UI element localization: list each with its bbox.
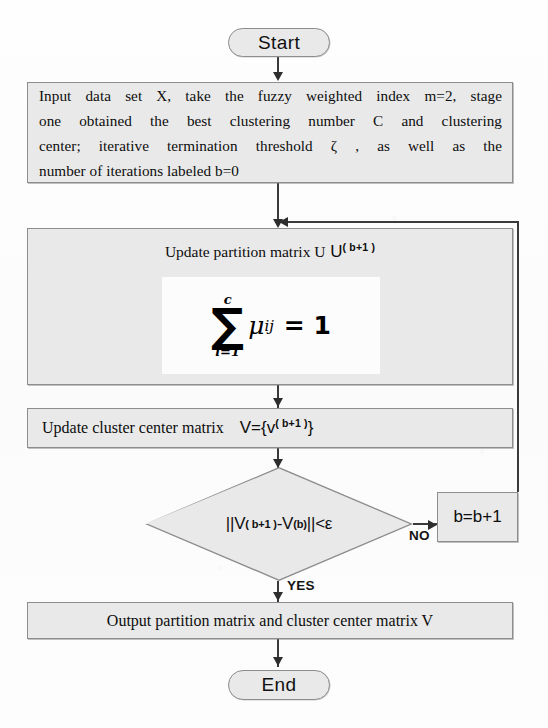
node-start-label: Start [258, 32, 300, 54]
node-increment-counter[interactable]: b=b+1 [437, 492, 518, 542]
update-v-brace-close: } [308, 419, 314, 438]
node-update-cluster-center-matrix[interactable]: Update cluster center matrix V={v( b+1 )… [27, 408, 513, 448]
input-line-1: Input data set X, take the fuzzy weighte… [39, 83, 502, 108]
node-output-process[interactable]: Output partition matrix and cluster cent… [27, 602, 513, 639]
summation-lower-limit: i=1 [215, 345, 240, 358]
update-v-superscript: ( b+1 ) [275, 417, 308, 429]
node-update-partition-matrix[interactable]: Update partition matrix U U( b+1 ) c ∑ i… [27, 228, 513, 385]
input-line-2: one obtained the best clustering number … [39, 108, 502, 133]
arrowhead-update-v-to-decision [273, 459, 283, 468]
edge-label-no: NO [409, 528, 430, 543]
node-decision-convergence[interactable]: ||V( b+1 ) -V(b)||<ε [145, 467, 413, 581]
decision-text-b: -V [277, 514, 294, 534]
connector-loopback-vertical [517, 221, 519, 492]
node-update-partition-matrix-label: Update partition matrix U U( b+1 ) [28, 241, 512, 262]
node-decision-label: ||V( b+1 ) -V(b)||<ε [145, 467, 413, 581]
arrowhead-decision-yes [273, 592, 283, 601]
arrowhead-update-u-to-update-v [273, 398, 283, 407]
input-line-3: center; iterative termination threshold … [39, 133, 502, 158]
formula-plate: c ∑ i=1 μij = 1 [162, 277, 380, 374]
node-start[interactable]: Start [228, 28, 330, 57]
node-end-label: End [261, 674, 296, 696]
decision-sup-b: (b) [293, 518, 306, 530]
update-u-text: Update partition matrix U [165, 243, 326, 260]
decision-sup-a: ( b+1 ) [245, 518, 276, 530]
formula-sum-membership: c ∑ i=1 μij = 1 [211, 293, 331, 358]
node-input-process[interactable]: Input data set X, take the fuzzy weighte… [27, 82, 513, 183]
arrowhead-loopback [279, 217, 288, 227]
formula-equals-one: = 1 [284, 311, 331, 340]
node-output-label: Output partition matrix and cluster cent… [107, 612, 433, 630]
arrowhead-output-to-end [273, 657, 283, 666]
sigma-icon: ∑ [211, 304, 244, 346]
connector-loopback-horizontal [286, 221, 519, 223]
formula-mu-subscript: ij [264, 317, 273, 335]
update-v-symbol: V={v [240, 419, 275, 438]
input-line-4: number of iterations labeled b=0 [39, 158, 502, 183]
node-increment-label: b=b+1 [453, 507, 501, 527]
decision-text-a: ||V [226, 514, 246, 534]
node-update-cluster-center-label: Update cluster center matrix V={v( b+1 )… [28, 417, 512, 438]
node-input-text: Input data set X, take the fuzzy weighte… [28, 83, 512, 183]
arrowhead-start-to-input [273, 72, 283, 81]
update-u-superscript: ( b+1 ) [342, 241, 375, 253]
formula-mu: μ [248, 311, 264, 340]
update-v-text: Update cluster center matrix [42, 420, 224, 437]
edge-label-yes: YES [287, 578, 315, 593]
decision-text-c: ||<ε [307, 514, 333, 534]
flowchart-canvas: Start Input data set X, take the fuzzy w… [0, 0, 548, 728]
summation-operator: c ∑ i=1 [211, 293, 244, 358]
node-end[interactable]: End [228, 670, 330, 700]
